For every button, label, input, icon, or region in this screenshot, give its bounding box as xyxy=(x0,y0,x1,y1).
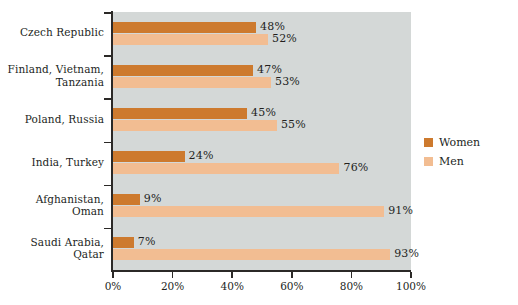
x-axis-tick xyxy=(172,272,174,278)
bar-men xyxy=(113,249,390,260)
x-axis-tick-label: 100% xyxy=(396,280,426,292)
bar-men xyxy=(113,206,384,217)
plot-area xyxy=(113,12,411,271)
bar-men xyxy=(113,34,268,45)
y-axis-tick xyxy=(104,228,112,230)
legend-item-men: Men xyxy=(424,153,480,170)
legend-swatch-women-icon xyxy=(424,138,433,147)
legend-label-women: Women xyxy=(439,136,480,149)
x-axis-tick xyxy=(351,272,353,278)
bar-value-label: 93% xyxy=(394,247,419,260)
bar-women xyxy=(113,65,253,76)
y-axis-tick xyxy=(104,12,112,14)
x-axis-tick xyxy=(410,272,412,278)
y-axis-tick xyxy=(104,98,112,100)
bar-value-label: 9% xyxy=(144,192,162,205)
y-axis-tick xyxy=(104,142,112,144)
bar-men xyxy=(113,77,271,88)
bar-women xyxy=(113,194,140,205)
bar-value-label: 55% xyxy=(281,118,306,131)
x-axis-tick-label: 60% xyxy=(280,280,303,292)
category-label: India, Turkey xyxy=(0,156,104,169)
bar-value-label: 76% xyxy=(343,161,368,174)
x-axis-tick-label: 20% xyxy=(161,280,184,292)
y-axis-tick xyxy=(104,185,112,187)
category-label: Saudi Arabia,Qatar xyxy=(0,236,104,261)
bar-women xyxy=(113,108,247,119)
legend-item-women: Women xyxy=(424,134,480,151)
x-axis-tick-label: 80% xyxy=(340,280,363,292)
bar-chart: Czech RepublicFinland, Vietnam,TanzaniaP… xyxy=(0,0,518,305)
bar-men xyxy=(113,120,277,131)
bar-value-label: 24% xyxy=(189,149,214,162)
x-axis-tick-label: 0% xyxy=(105,280,122,292)
bar-value-label: 52% xyxy=(272,32,297,45)
x-axis-tick xyxy=(291,272,293,278)
bar-value-label: 7% xyxy=(138,235,156,248)
bar-men xyxy=(113,163,339,174)
category-label: Poland, Russia xyxy=(0,113,104,126)
bar-women xyxy=(113,22,256,33)
bar-value-label: 91% xyxy=(388,204,413,217)
y-axis-tick xyxy=(104,55,112,57)
category-label: Czech Republic xyxy=(0,26,104,39)
x-axis-tick xyxy=(231,272,233,278)
category-label: Finland, Vietnam,Tanzania xyxy=(0,63,104,88)
x-axis-line xyxy=(111,270,411,272)
x-axis-tick xyxy=(112,272,114,278)
bar-value-label: 45% xyxy=(251,106,276,119)
chart-legend: Women Men xyxy=(424,134,480,172)
category-axis-labels: Czech RepublicFinland, Vietnam,TanzaniaP… xyxy=(0,12,108,271)
category-label: Afghanistan,Oman xyxy=(0,193,104,218)
legend-label-men: Men xyxy=(439,155,464,168)
bar-value-label: 53% xyxy=(275,75,300,88)
x-axis-tick-label: 40% xyxy=(221,280,244,292)
bar-women xyxy=(113,151,185,162)
bar-women xyxy=(113,237,134,248)
legend-swatch-men-icon xyxy=(424,157,433,166)
